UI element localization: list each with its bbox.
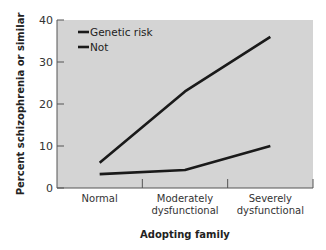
y-tick-label: 10	[39, 140, 53, 153]
x-category-label: Normal	[82, 193, 118, 204]
legend-label: Genetic risk	[90, 26, 154, 38]
x-category-label: dysfunctional	[237, 205, 304, 216]
y-axis-title: Percent schizophrenia or similar	[15, 13, 26, 196]
y-tick-label: 40	[39, 14, 53, 27]
y-tick-label: 0	[46, 182, 53, 195]
legend-label: Not	[90, 41, 108, 53]
x-axis-title: Adopting family	[140, 229, 230, 240]
y-tick-label: 20	[39, 98, 53, 111]
x-category-label: Severely	[249, 193, 292, 204]
line-chart: 010203040 NormalModeratelydysfunctionalS…	[0, 0, 326, 250]
y-tick-label: 30	[39, 56, 53, 69]
x-category-label: dysfunctional	[151, 205, 218, 216]
x-category-label: Moderately	[157, 193, 213, 204]
